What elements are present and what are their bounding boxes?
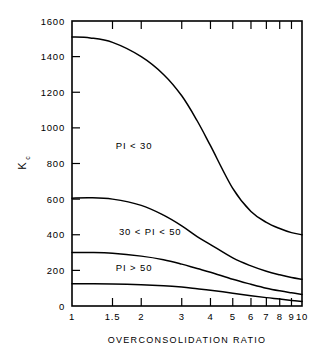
- x-tick-label: 1.5: [105, 311, 121, 322]
- x-tick-label: 3: [179, 311, 185, 322]
- band-label: PI > 50: [116, 262, 153, 273]
- x-tick-label: 10: [296, 311, 308, 322]
- y-tick-label: 600: [47, 194, 65, 205]
- y-tick-label: 0: [59, 301, 65, 312]
- x-tick-label: 7: [263, 311, 269, 322]
- x-tick-label: 8: [277, 311, 283, 322]
- y-tick-label: 1400: [41, 51, 65, 62]
- x-tick-label: 4: [207, 311, 213, 322]
- y-tick-label: 200: [47, 265, 65, 276]
- band-label: 30 < PI < 50: [119, 226, 182, 237]
- kc-vs-overconsolidation-ratio-chart: 02004006008001000120014001600 11.5234567…: [0, 0, 322, 352]
- x-axis-title: OVERCONSOLIDATION RATIO: [108, 335, 267, 345]
- x-tick-label: 6: [248, 311, 254, 322]
- band-label: PI < 30: [116, 140, 153, 151]
- y-tick-label: 1600: [41, 16, 65, 27]
- y-tick-label: 800: [47, 158, 65, 169]
- chart-figure: 02004006008001000120014001600 11.5234567…: [0, 0, 322, 352]
- y-axis-title-subscript: c: [24, 156, 31, 160]
- y-tick-label: 400: [47, 229, 65, 240]
- x-tick-label: 5: [230, 311, 236, 322]
- x-tick-label: 2: [138, 311, 144, 322]
- y-axis-title-main: K: [16, 162, 28, 170]
- y-tick-label: 1200: [41, 87, 65, 98]
- y-tick-label: 1000: [41, 122, 65, 133]
- x-tick-label: 9: [288, 311, 294, 322]
- x-tick-label: 1: [69, 311, 75, 322]
